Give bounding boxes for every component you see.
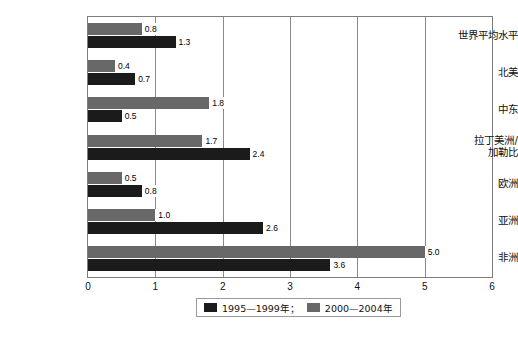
bar-value-label: 2.4 xyxy=(250,148,267,160)
y-axis-category-label: 中东 xyxy=(436,103,518,115)
bar-value-label: 0.8 xyxy=(142,23,159,35)
x-axis-tick-label: 3 xyxy=(275,281,305,292)
bar-2000-2004 xyxy=(88,23,142,35)
y-axis-category-label: 非洲 xyxy=(436,251,518,263)
bar-1995-1999 xyxy=(88,36,176,48)
legend-item: 2000—2004年 xyxy=(307,301,393,315)
bar-value-label: 3.6 xyxy=(330,259,347,271)
plot-area: 0.81.30.40.71.80.51.72.40.50.81.02.65.03… xyxy=(87,16,493,278)
bar-group: 1.02.6 xyxy=(88,209,492,234)
bar-2000-2004 xyxy=(88,60,115,72)
bar-group: 1.80.5 xyxy=(88,97,492,122)
x-axis-tick-label: 5 xyxy=(410,281,440,292)
bar-2000-2004 xyxy=(88,209,155,221)
bar-2000-2004 xyxy=(88,172,122,184)
bar-value-label: 1.7 xyxy=(202,135,219,147)
bar-group: 5.03.6 xyxy=(88,246,492,271)
bar-2000-2004 xyxy=(88,246,425,258)
y-axis-category-label: 北美 xyxy=(436,66,518,78)
bar-value-label: 0.7 xyxy=(135,73,152,85)
bar-value-label: 0.5 xyxy=(122,110,139,122)
x-axis-tick-label: 6 xyxy=(477,281,507,292)
bar-value-label: 1.8 xyxy=(209,97,226,109)
legend-item: 1995—1999年； xyxy=(204,301,300,315)
bar-group: 0.81.3 xyxy=(88,23,492,48)
bar-value-label: 1.0 xyxy=(155,209,172,221)
x-axis-tick-label: 1 xyxy=(140,281,170,292)
x-axis-tick-label: 2 xyxy=(208,281,238,292)
figure-caption xyxy=(0,332,518,339)
bar-1995-1999 xyxy=(88,259,330,271)
x-axis-tick-label: 4 xyxy=(342,281,372,292)
bar-2000-2004 xyxy=(88,135,202,147)
bar-1995-1999 xyxy=(88,110,122,122)
bar-group: 0.50.8 xyxy=(88,172,492,197)
legend-swatch xyxy=(307,303,320,312)
bar-value-label: 0.8 xyxy=(142,185,159,197)
y-axis-category-label: 世界平均水平 xyxy=(436,29,518,41)
legend-label: 1995—1999年； xyxy=(222,301,300,315)
chart-legend: 1995—1999年；2000—2004年 xyxy=(196,298,401,317)
legend-label: 2000—2004年 xyxy=(325,301,393,315)
bar-value-label: 0.5 xyxy=(122,172,139,184)
bar-group: 0.40.7 xyxy=(88,60,492,85)
bar-value-label: 0.4 xyxy=(115,60,132,72)
legend-swatch xyxy=(204,303,217,312)
bar-value-label: 2.6 xyxy=(263,222,280,234)
bar-group: 1.72.4 xyxy=(88,135,492,160)
y-axis-category-label: 亚洲 xyxy=(436,214,518,226)
x-axis-tick-label: 0 xyxy=(73,281,103,292)
bar-1995-1999 xyxy=(88,148,250,160)
bar-1995-1999 xyxy=(88,185,142,197)
y-axis-category-label: 拉丁美洲/ 加勒比 xyxy=(436,134,518,158)
y-axis-category-label: 欧洲 xyxy=(436,177,518,189)
chart-figure: 0.81.30.40.71.80.51.72.40.50.81.02.65.03… xyxy=(0,0,518,339)
bar-value-label: 1.3 xyxy=(176,36,193,48)
bar-2000-2004 xyxy=(88,97,209,109)
bar-1995-1999 xyxy=(88,222,263,234)
bar-1995-1999 xyxy=(88,73,135,85)
